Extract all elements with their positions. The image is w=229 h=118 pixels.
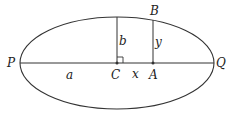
label-b-point: B <box>149 4 159 18</box>
point-c <box>116 62 119 65</box>
label-y: y <box>154 35 162 49</box>
ellipse-diagram: P Q C A B a b x y <box>0 0 229 118</box>
label-x: x <box>132 67 139 81</box>
label-p: P <box>6 56 16 70</box>
label-a-point: A <box>148 68 158 82</box>
label-a-length: a <box>66 68 73 82</box>
label-q: Q <box>216 56 226 70</box>
point-a <box>152 62 155 65</box>
label-b-length: b <box>119 34 127 48</box>
label-c: C <box>111 68 120 82</box>
